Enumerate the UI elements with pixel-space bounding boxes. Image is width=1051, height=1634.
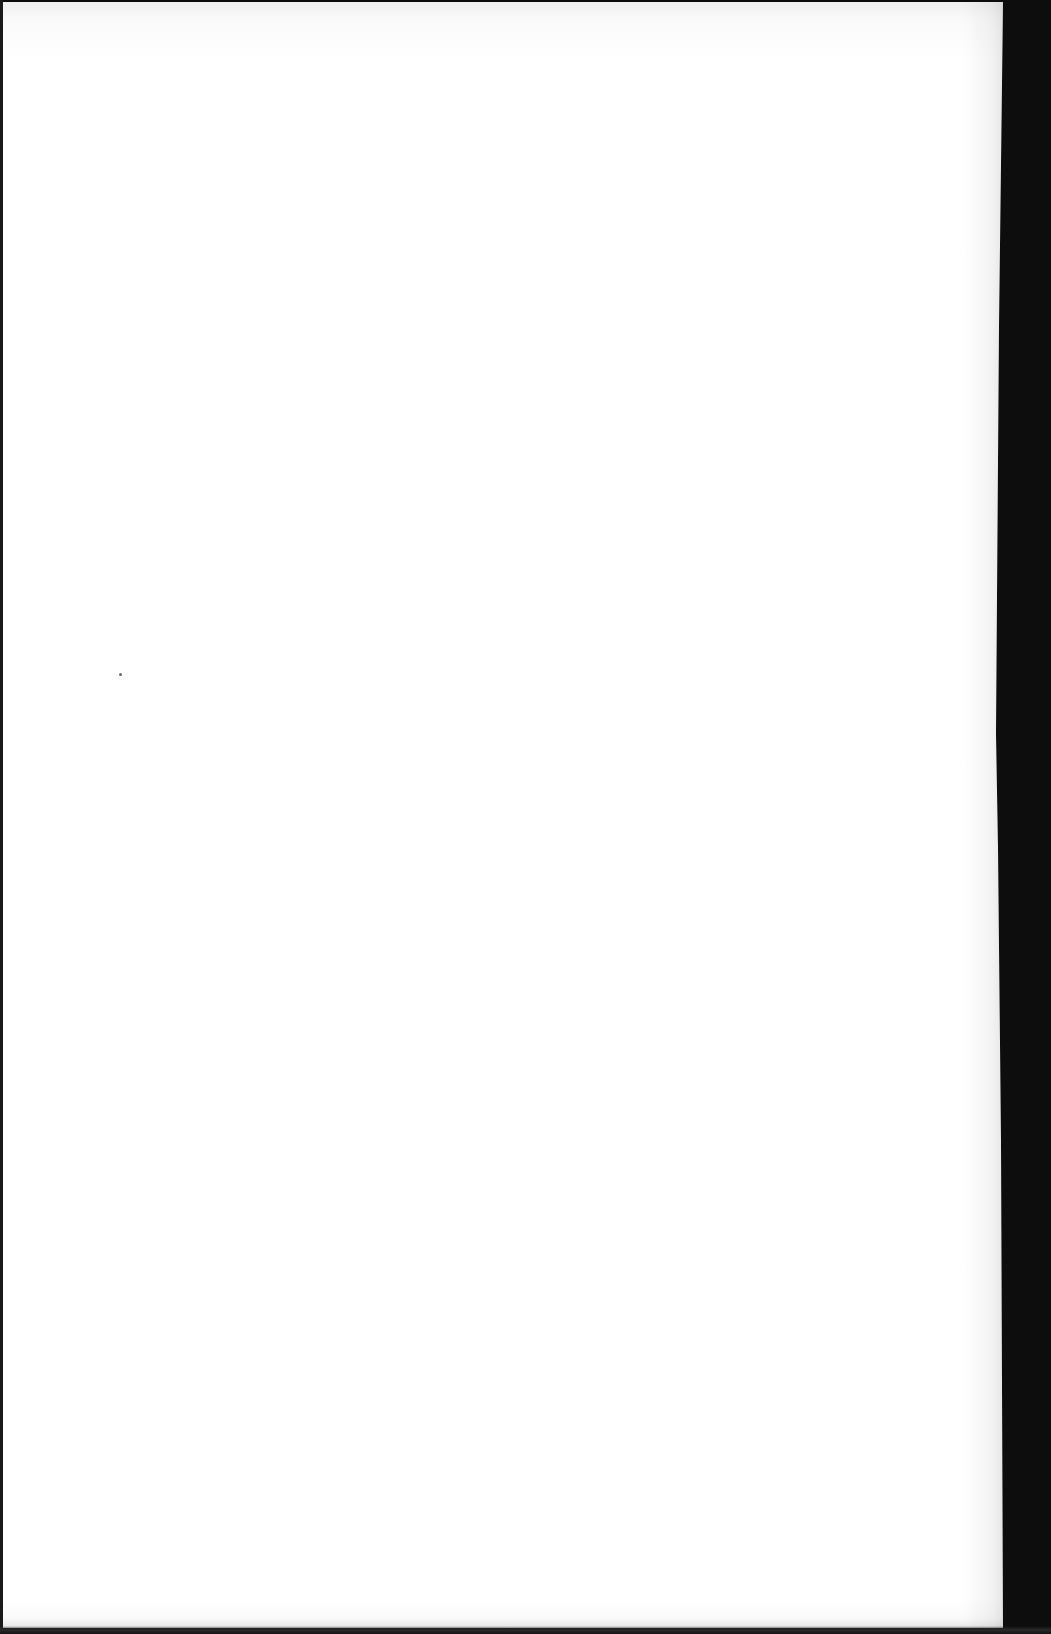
scanner-bottom-edge <box>0 1626 1051 1634</box>
scanner-left-edge <box>0 0 3 1634</box>
blank-page <box>3 2 1003 1628</box>
scanned-document <box>0 0 1051 1634</box>
dust-speck <box>119 673 122 676</box>
